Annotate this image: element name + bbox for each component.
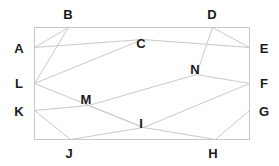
segment-CE [143, 40, 250, 48]
vertex-label-h: H [208, 147, 217, 160]
vertex-label-e: E [260, 42, 269, 55]
segment-KJ [35, 111, 71, 140]
segment-IH [144, 128, 216, 140]
segment-BL [35, 28, 69, 84]
figure-canvas [0, 0, 279, 166]
segment-MI [89, 106, 144, 128]
segment-AB [35, 28, 69, 48]
vertex-label-j: J [65, 147, 72, 160]
geometry-figure: ABCDEFGHIJKLMN [0, 0, 279, 166]
vertex-label-a: A [14, 42, 23, 55]
vertex-label-k: K [14, 105, 23, 118]
vertex-label-m: M [81, 93, 92, 106]
segment-IF [144, 84, 250, 128]
vertex-label-d: D [207, 8, 216, 21]
vertex-label-l: L [15, 77, 23, 90]
vertex-label-i: I [139, 117, 143, 130]
vertex-label-b: B [63, 8, 72, 21]
segment-MN [89, 75, 197, 106]
vertex-label-f: F [260, 77, 268, 90]
vertex-label-c: C [136, 37, 145, 50]
segment-HG [216, 111, 250, 140]
segment-NF [197, 75, 250, 84]
vertex-label-n: N [190, 63, 199, 76]
segment-JI [71, 128, 144, 140]
segment-DE [213, 28, 250, 48]
vertex-label-g: G [259, 105, 269, 118]
